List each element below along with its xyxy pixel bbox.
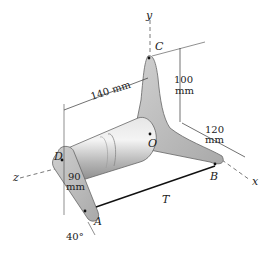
point-A <box>84 210 87 213</box>
point-O-label: O <box>148 137 157 150</box>
point-C <box>148 57 151 60</box>
point-B <box>214 163 217 166</box>
x-axis-label: x <box>252 175 259 188</box>
z-axis-label: z <box>12 171 19 184</box>
dim-100-unit: mm <box>175 85 194 96</box>
dim-140-label: 140 mm <box>89 79 132 102</box>
bracket-diagram: 140 mm 100 mm 120 mm 90 mm 40° T y x z C… <box>0 0 270 255</box>
point-C-label: C <box>155 40 164 53</box>
point-B-label: B <box>209 170 218 183</box>
x-axis <box>222 160 250 180</box>
dim-120-unit: mm <box>205 134 224 145</box>
dim-90-unit: mm <box>66 181 85 192</box>
dim-100-value: 100 <box>174 74 193 85</box>
angle-40-label: 40° <box>66 231 84 242</box>
force-T-label: T <box>162 193 171 206</box>
point-D-label: D <box>53 150 63 163</box>
force-T-line <box>96 166 215 207</box>
point-A-label: A <box>93 215 102 228</box>
y-axis-label: y <box>145 9 153 22</box>
point-O <box>149 133 152 136</box>
